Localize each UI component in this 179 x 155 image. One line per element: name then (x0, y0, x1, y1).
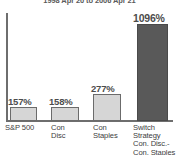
category-label-line: Disc (51, 132, 65, 140)
category-label-switch-strategy: Switch Strategy Con. Disc.- Con. Staples (133, 124, 175, 155)
plot-area: 157% 158% 277% 1096% S&P 500 Con Disc Co… (0, 0, 179, 155)
category-label-sp500: S&P 500 (5, 124, 34, 132)
bar-sp500 (10, 107, 37, 121)
bar-value-label-sp500: 157% (8, 97, 32, 107)
bar-con-staples (93, 94, 121, 121)
category-label-con-staples: Con Staples (93, 124, 118, 140)
bar-switch-strategy (137, 24, 168, 121)
category-label-line: Staples (93, 132, 118, 140)
bar-con-disc (51, 107, 79, 121)
bar-chart: 1998 Apr 20 to 2006 Apr 21 157% 158% 277… (0, 0, 179, 155)
bar-value-label-con-staples: 277% (91, 84, 115, 94)
bar-value-label-switch-strategy: 1096% (133, 13, 165, 23)
category-label-line: S&P 500 (5, 124, 34, 132)
category-label-con-disc: Con Disc (51, 124, 65, 140)
bar-value-label-con-disc: 158% (49, 97, 73, 107)
category-label-line: Con. Staples (133, 149, 175, 155)
